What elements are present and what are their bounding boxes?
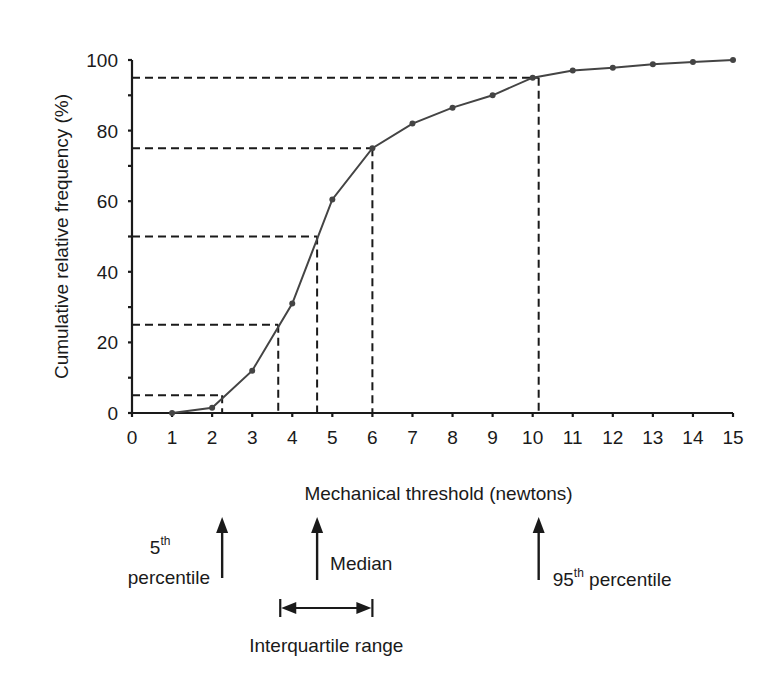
x-tick-label: 15 [722,427,743,448]
x-tick-label: 6 [367,427,378,448]
x-tick-label: 4 [287,427,298,448]
data-point [289,301,295,307]
x-tick-label: 1 [167,427,178,448]
y-axis-title: Cumulative relative frequency (%) [51,94,72,379]
axes [132,60,733,413]
p5-label-line2: percentile [128,567,210,588]
arrow-head [216,517,228,533]
median-arrow-icon [311,517,323,580]
data-point [329,196,335,202]
x-tick-label: 14 [682,427,704,448]
arrow-head [311,517,323,533]
iqr-label: Interquartile range [249,635,403,656]
p95-sup: th [574,566,584,580]
x-tick-label: 11 [563,427,583,448]
percentile-annotations: 5th percentile Median 95th percentile In… [128,517,672,656]
data-point [490,92,496,98]
data-point [169,410,175,416]
cumulative-frequency-chart: 0123456789101112131415 020406080100 Cumu… [0,0,760,688]
iqr-double-arrow-icon [280,599,372,617]
p95-base: 95 [553,569,574,590]
p95-arrow-icon [533,517,545,580]
x-tick-label: 2 [207,427,218,448]
iqr-left-head [281,602,296,614]
reference-lines [132,78,539,413]
p5-base: 5 [150,537,161,558]
p95-rest: percentile [584,569,672,590]
data-point [530,75,536,81]
p5-arrow-icon [216,517,228,578]
x-tick-label: 10 [522,427,543,448]
data-point [450,105,456,111]
y-tick-label: 20 [97,332,118,353]
x-tick-label: 0 [127,427,138,448]
data-point [409,121,415,127]
y-tick-label: 0 [107,403,118,424]
data-point [650,61,656,67]
data-point [610,65,616,71]
iqr-right-head [356,602,371,614]
arrow-head [533,517,545,533]
data-point [249,368,255,374]
x-axis-title: Mechanical threshold (newtons) [304,483,572,504]
x-tick-label: 9 [487,427,498,448]
x-tick-label: 13 [642,427,663,448]
x-tick-label: 5 [327,427,338,448]
x-tick-label: 12 [602,427,623,448]
y-tick-label: 60 [97,191,118,212]
data-point [209,405,215,411]
x-tick-label: 7 [407,427,418,448]
p5-sup: th [160,534,170,548]
y-tick-label: 80 [97,121,118,142]
y-ticks: 020406080100 [86,50,132,424]
data-point [369,145,375,151]
data-point [730,57,736,63]
x-tick-label: 3 [247,427,258,448]
data-point [690,59,696,65]
median-label: Median [330,553,392,574]
p95-label: 95th percentile [553,566,672,590]
data-point [570,68,576,74]
y-tick-label: 40 [97,262,118,283]
x-ticks: 0123456789101112131415 [127,413,744,448]
p5-label: 5th [150,534,171,558]
x-tick-label: 8 [447,427,458,448]
y-tick-label: 100 [86,50,118,71]
